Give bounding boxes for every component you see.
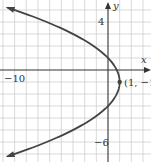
parabola-graph: x y −10 4 −6 (1, −1) [0,0,151,162]
x-axis-label: x [141,54,147,65]
x-axis-arrow-icon [144,67,151,73]
vertex-label: (1, −1) [124,77,151,88]
y-axis-arrow-icon [105,2,111,9]
tick-label-4: 4 [98,16,104,27]
vertex-point [118,80,122,84]
tick-label-neg10: −10 [4,73,25,84]
tick-label-neg6: −6 [94,137,109,148]
y-axis-label: y [112,0,119,11]
